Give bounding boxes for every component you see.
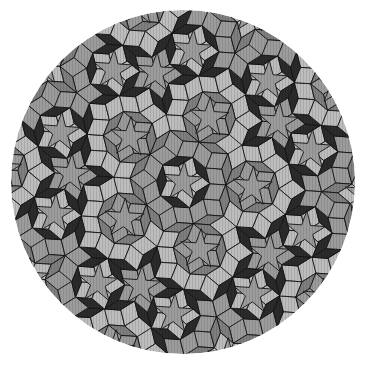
- penrose-tiling-canvas: [0, 0, 367, 365]
- penrose-tiling-figure: Penrose P1 pentagonal tiling Grayscale a…: [0, 0, 367, 365]
